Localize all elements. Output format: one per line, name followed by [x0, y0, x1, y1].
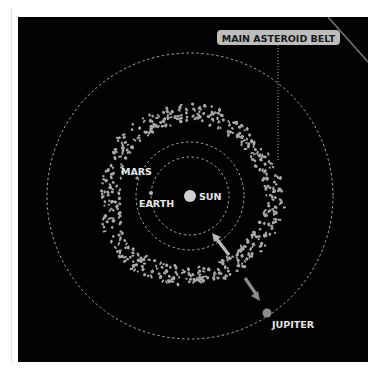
main-asteroid-belt-callout: MAIN ASTEROID BELT	[217, 30, 340, 45]
sun-label: SUN	[199, 191, 222, 202]
diagram-panel: MAIN ASTEROID BELT SUN EARTH MARS JUPITE…	[18, 17, 368, 362]
page-margin-line	[11, 8, 12, 363]
mars-label: MARS	[121, 166, 152, 177]
callout-label: MAIN ASTEROID BELT	[222, 33, 336, 44]
jupiter-label: JUPITER	[271, 319, 315, 330]
earth-label: EARTH	[139, 198, 174, 209]
solar-system-diagram: MAIN ASTEROID BELT SUN EARTH MARS JUPITE…	[18, 17, 368, 362]
jupiter-icon	[263, 309, 272, 318]
outward-arrow	[245, 278, 260, 301]
sun-icon	[184, 190, 196, 202]
earth-icon	[149, 191, 153, 195]
